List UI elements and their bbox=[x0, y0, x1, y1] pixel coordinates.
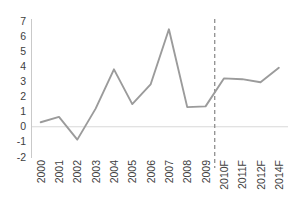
x-axis-tick: 2003 bbox=[90, 160, 101, 206]
y-axis-tick-label: 0 bbox=[8, 121, 26, 132]
x-axis-tick: 2005 bbox=[127, 160, 138, 206]
x-axis-tick-label: 2000 bbox=[35, 160, 46, 183]
data-series-line bbox=[41, 29, 279, 139]
x-axis-tick: 2008 bbox=[182, 160, 193, 206]
y-axis-tick: 3 bbox=[8, 76, 26, 87]
x-axis-tick-label: 2011F bbox=[237, 160, 248, 189]
x-axis-tick: 2014F bbox=[273, 160, 284, 206]
y-axis-tick: 2 bbox=[8, 91, 26, 102]
x-axis-tick: 2002 bbox=[72, 160, 83, 206]
x-axis-tick: 2000 bbox=[35, 160, 46, 206]
y-axis-tick-label: -2 bbox=[8, 152, 26, 163]
x-axis-tick-label: 2005 bbox=[127, 160, 138, 183]
y-axis-tick: 1 bbox=[8, 106, 26, 117]
x-axis-tick-label: 2012F bbox=[255, 160, 266, 190]
x-axis-tick-label: 2010F bbox=[218, 160, 229, 190]
x-axis-tick-label: 2007 bbox=[163, 160, 174, 183]
x-axis-tick-label: 2001 bbox=[53, 160, 64, 183]
y-axis-tick: 5 bbox=[8, 46, 26, 57]
x-axis-tick-label: 2002 bbox=[72, 160, 83, 183]
x-axis-tick: 2010F bbox=[218, 160, 229, 206]
y-axis-tick-label: 4 bbox=[8, 61, 26, 72]
y-axis-tick: 6 bbox=[8, 31, 26, 42]
x-axis-tick-label: 2004 bbox=[108, 160, 119, 183]
x-axis-tick-label: 2009 bbox=[200, 160, 211, 183]
x-axis-tick-label: 2003 bbox=[90, 160, 101, 183]
x-axis-tick: 2006 bbox=[145, 160, 156, 206]
y-axis-tick-label: 2 bbox=[8, 91, 26, 102]
x-axis-tick: 2001 bbox=[53, 160, 64, 206]
x-axis-tick: 2012F bbox=[255, 160, 266, 206]
x-axis-tick: 2009 bbox=[200, 160, 211, 206]
x-axis-tick-label: 2008 bbox=[182, 160, 193, 183]
x-axis-tick-label: 2014F bbox=[273, 160, 284, 190]
line-chart: 76543210-1-2 200020012002200320042005200… bbox=[0, 0, 296, 206]
x-axis-tick-label: 2006 bbox=[145, 160, 156, 183]
y-axis-tick-label: 3 bbox=[8, 76, 26, 87]
y-axis-tick-label: -1 bbox=[8, 136, 26, 147]
y-axis-tick: 4 bbox=[8, 61, 26, 72]
y-axis-tick: -2 bbox=[8, 152, 26, 163]
x-axis-tick: 2011F bbox=[237, 160, 248, 206]
y-axis-tick: 7 bbox=[8, 16, 26, 27]
y-axis-tick-label: 1 bbox=[8, 106, 26, 117]
y-axis-tick: -1 bbox=[8, 136, 26, 147]
y-axis-tick: 0 bbox=[8, 121, 26, 132]
x-axis-tick: 2007 bbox=[163, 160, 174, 206]
x-axis-tick: 2004 bbox=[108, 160, 119, 206]
y-axis-tick-label: 6 bbox=[8, 31, 26, 42]
y-axis-tick-label: 5 bbox=[8, 46, 26, 57]
y-axis-tick-label: 7 bbox=[8, 16, 26, 27]
